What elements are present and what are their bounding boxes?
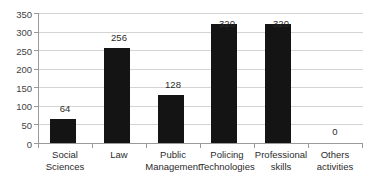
x-tick-6 — [362, 144, 363, 148]
value-label-law: 256 — [92, 33, 146, 43]
x-axis-label-line2: activities — [308, 161, 362, 173]
x-axis-label-line2: Technologies — [198, 161, 256, 173]
x-axis-label-line1: Public — [144, 149, 202, 161]
x-axis-label-line2: Sciences — [38, 161, 92, 173]
x-axis-label-line2: Management — [144, 161, 202, 173]
y-axis-label-350: 350 — [0, 10, 32, 20]
x-axis-label-line1: Professional — [252, 149, 310, 161]
x-axis-label-line2: skills — [252, 161, 310, 173]
y-axis-label-150: 150 — [0, 84, 32, 94]
value-label-policing-technologies: 320 — [200, 19, 254, 29]
x-tick-1 — [92, 144, 93, 148]
y-axis-label-100: 100 — [0, 102, 32, 112]
x-axis-label-line1: Policing — [198, 149, 256, 161]
value-label-professional-skills: 320 — [254, 19, 308, 29]
x-axis-label-professional-skills: Professional skills — [252, 149, 310, 173]
x-axis-label-others-activities: Others activities — [308, 149, 362, 173]
x-axis-label-line1: Law — [92, 149, 146, 161]
x-tick-0 — [38, 144, 39, 148]
y-axis-label-50: 50 — [0, 121, 32, 131]
x-axis-label-public-management: Public Management — [144, 149, 202, 173]
x-axis-label-law: Law — [92, 149, 146, 161]
value-label-others-activities: 0 — [308, 127, 362, 137]
x-tick-3 — [200, 144, 201, 148]
bar-chart: 350 300 250 200 150 100 50 0 64 256 128 … — [0, 0, 372, 187]
y-axis-label-200: 200 — [0, 65, 32, 75]
x-tick-5 — [308, 144, 309, 148]
value-label-public-management: 128 — [146, 80, 200, 90]
x-axis-label-line1: Others — [308, 149, 362, 161]
y-axis-label-0: 0 — [0, 140, 32, 150]
y-axis-label-300: 300 — [0, 28, 32, 38]
y-axis-label-250: 250 — [0, 47, 32, 57]
x-axis-label-social-sciences: Social Sciences — [38, 149, 92, 173]
x-axis-label-policing-technologies: Policing Technologies — [198, 149, 256, 173]
x-tick-4 — [254, 144, 255, 148]
x-tick-2 — [146, 144, 147, 148]
x-axis-label-line1: Social — [38, 149, 92, 161]
value-label-social-sciences: 64 — [38, 104, 92, 114]
